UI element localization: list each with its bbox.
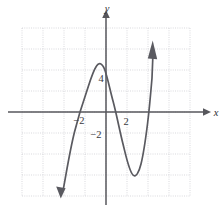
x-axis-arrowhead-icon [203,108,211,116]
y-tick-label-neg2: −2 [90,129,101,140]
coordinate-plane-svg: −2 2 4 −2 y x [0,0,223,214]
graph-figure: −2 2 4 −2 y x [0,0,223,214]
x-tick-label-pos2: 2 [123,116,128,127]
y-axis [102,10,110,205]
y-tick-label-pos4: 4 [98,73,104,84]
x-axis-label: x [213,107,219,118]
x-axis [8,108,211,116]
x-tick-label-neg2: −2 [73,115,84,126]
y-axis-label: y [104,3,110,14]
curve-arrowhead-up-right-icon [148,41,157,60]
